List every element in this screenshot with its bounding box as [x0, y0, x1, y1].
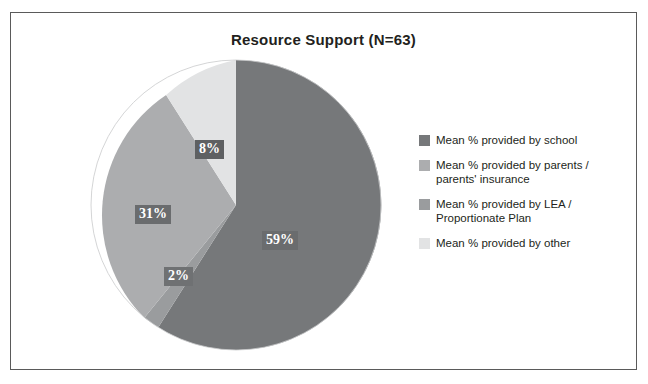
legend-swatch-icon	[419, 160, 430, 171]
legend-label-lea: Mean % provided by LEA / Proportionate P…	[436, 197, 572, 225]
legend-item-school[interactable]: Mean % provided by school	[419, 133, 634, 147]
chart-legend: Mean % provided by school Mean % provide…	[419, 133, 634, 261]
pie-label-school: 59%	[262, 231, 298, 250]
legend-swatch-icon	[419, 199, 430, 210]
legend-swatch-icon	[419, 135, 430, 146]
legend-label-other: Mean % provided by other	[436, 236, 570, 250]
pie-label-other: 8%	[195, 140, 224, 159]
pie-svg	[86, 55, 386, 355]
legend-item-parents[interactable]: Mean % provided by parents / parents' in…	[419, 158, 634, 186]
pie-label-parents: 31%	[135, 205, 171, 224]
legend-label-parents: Mean % provided by parents / parents' in…	[436, 158, 589, 186]
legend-label-school: Mean % provided by school	[436, 133, 577, 147]
chart-title: Resource Support (N=63)	[11, 31, 636, 48]
legend-item-other[interactable]: Mean % provided by other	[419, 236, 634, 250]
legend-swatch-icon	[419, 238, 430, 249]
legend-item-lea[interactable]: Mean % provided by LEA / Proportionate P…	[419, 197, 634, 225]
pie-label-lea: 2%	[164, 267, 193, 286]
pie-chart	[86, 55, 386, 355]
chart-frame: Resource Support (N=63) 59% 2% 31% 8% Me…	[10, 12, 637, 370]
